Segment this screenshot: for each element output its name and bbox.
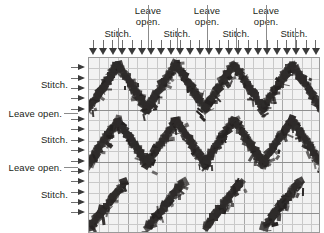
left-arrow-head xyxy=(78,137,85,143)
top-arrow-head xyxy=(283,48,291,55)
top-arrow-head xyxy=(99,48,107,55)
left-arrow-head xyxy=(78,209,85,215)
top-label-stitch-4-text: Stitch. xyxy=(280,28,307,39)
stitch-tuft xyxy=(317,171,320,174)
top-arrow-head xyxy=(176,48,184,55)
left-label-stitch-2: Stitch. xyxy=(6,134,68,145)
stitch-tuft xyxy=(218,146,222,150)
left-label-stitch-1-text: Stitch. xyxy=(41,79,68,90)
top-arrow-head xyxy=(302,48,310,55)
left-arrow-head xyxy=(78,147,85,153)
stitch-tuft xyxy=(231,203,234,207)
left-arrow-head xyxy=(78,64,85,70)
left-arrow-head xyxy=(78,189,85,195)
left-label-stitch-3-text: Stitch. xyxy=(41,189,68,200)
top-arrow-head xyxy=(118,48,126,55)
stitch-tuft xyxy=(275,85,281,90)
top-arrow-head xyxy=(234,48,242,55)
left-arrow-head xyxy=(78,168,85,174)
left-label-leave-open-1-text: Leave open. xyxy=(9,108,62,119)
stitch-tuft xyxy=(284,203,287,209)
leader-line-leave-open-1 xyxy=(148,5,149,49)
left-label-leave-open-1: Leave open. xyxy=(0,108,62,119)
top-arrow-head xyxy=(157,48,165,55)
leader-line-left-leave-open-1 xyxy=(64,113,78,114)
top-arrow-head xyxy=(225,48,233,55)
top-arrow-head xyxy=(89,48,97,55)
stitch-tuft xyxy=(101,151,105,154)
stitch-tuft xyxy=(142,231,147,233)
stitch-motifs xyxy=(89,58,319,232)
left-label-leave-open-2-text: Leave open. xyxy=(9,162,62,173)
stitch-tuft xyxy=(213,100,217,104)
left-arrow-head xyxy=(78,106,85,112)
top-arrow-head xyxy=(292,48,300,55)
stitch-mark xyxy=(319,161,320,168)
stitch-tuft xyxy=(302,187,304,195)
stitch-tuft xyxy=(152,170,158,175)
leader-line-stitch-2 xyxy=(177,28,178,49)
top-arrow-head xyxy=(167,48,175,55)
stitch-tuft xyxy=(273,92,281,95)
top-arrow-head xyxy=(205,48,213,55)
top-arrow-head xyxy=(263,48,271,55)
leader-line-left-leave-open-2 xyxy=(64,167,78,168)
top-arrow-head xyxy=(215,48,223,55)
top-label-stitch-4: Stitch. xyxy=(272,28,316,39)
left-label-leave-open-2: Leave open. xyxy=(0,162,62,173)
left-arrow-head xyxy=(78,116,85,122)
stitch-tuft xyxy=(243,189,247,194)
stitch-tuft xyxy=(93,107,97,111)
top-arrow-head xyxy=(254,48,262,55)
stitch-tuft xyxy=(268,230,272,232)
stitch-tuft xyxy=(106,134,115,138)
stitch-mark xyxy=(294,177,305,187)
top-arrow-head xyxy=(312,48,320,55)
diagram-canvas: Stitch. Leave open. Stitch. Leave open. … xyxy=(0,0,324,233)
leader-line-stitch-1 xyxy=(118,28,119,49)
left-label-stitch-1: Stitch. xyxy=(6,79,68,90)
stitch-tuft xyxy=(209,108,215,111)
top-arrow-head xyxy=(273,48,281,55)
left-arrow-head xyxy=(78,75,85,81)
top-arrow-head xyxy=(244,48,252,55)
left-arrow-head xyxy=(78,199,85,205)
left-arrow-head xyxy=(78,178,85,184)
left-label-stitch-2-text: Stitch. xyxy=(41,134,68,145)
top-arrow-head xyxy=(186,48,194,55)
left-label-stitch-3: Stitch. xyxy=(6,189,68,200)
stitch-tuft xyxy=(168,140,173,142)
stitch-chart-grid xyxy=(88,57,320,233)
stitch-tuft xyxy=(153,108,158,110)
top-arrow-head xyxy=(147,48,155,55)
left-arrow-head xyxy=(78,85,85,91)
left-arrow-head xyxy=(78,95,85,101)
stitch-tuft xyxy=(110,200,118,203)
left-arrow-head xyxy=(78,158,85,164)
top-arrow-head xyxy=(138,48,146,55)
top-arrow-head xyxy=(128,48,136,55)
top-arrow-head xyxy=(196,48,204,55)
left-arrow-head xyxy=(78,126,85,132)
stitch-tuft xyxy=(272,96,277,103)
stitch-tuft xyxy=(284,84,290,87)
top-arrow-head xyxy=(109,48,117,55)
